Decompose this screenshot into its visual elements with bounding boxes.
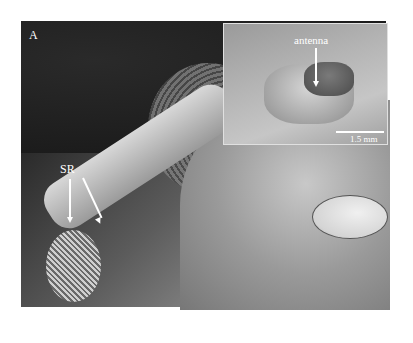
- inset-scale-label: 1.5 mm: [350, 134, 378, 144]
- main-scale-label: 300 µm: [360, 317, 388, 327]
- panel-label: A: [29, 29, 38, 41]
- sr-arrowhead-1: [67, 217, 73, 223]
- main-scale-bar: [280, 313, 385, 315]
- inset-insect-head: [304, 62, 354, 96]
- antenna-club: [46, 230, 101, 302]
- antenna-arrow: [315, 48, 317, 82]
- inset-micrograph: antenna 1.5 mm: [223, 23, 388, 145]
- inset-scale-bar: [336, 131, 384, 133]
- sr-label: SR: [60, 163, 75, 175]
- antenna-label: antenna: [294, 35, 328, 46]
- sr-arrow-1: [69, 179, 71, 219]
- antenna-arrowhead: [313, 81, 319, 87]
- mandible: [312, 195, 388, 239]
